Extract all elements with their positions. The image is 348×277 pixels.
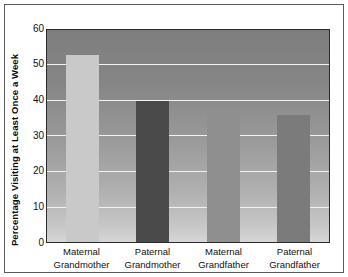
x-label-line1: Paternal [117, 246, 188, 259]
y-tick-label: 10 [4, 202, 44, 212]
x-label-line2: Grandmother [117, 259, 188, 272]
x-tick-label-maternal-grandfather: Maternal Grandfather [188, 246, 259, 274]
bar-maternal-grandmother [66, 55, 99, 242]
x-tick-label-maternal-grandmother: Maternal Grandmother [46, 246, 117, 274]
x-label-line1: Maternal [46, 246, 117, 259]
x-label-line2: Grandmother [46, 259, 117, 272]
plot-area [46, 29, 330, 243]
x-tick-label-paternal-grandmother: Paternal Grandmother [117, 246, 188, 274]
x-label-line2: Grandfather [259, 259, 330, 272]
figure: Percentage Visiting at Least Once a Week… [0, 0, 348, 277]
x-axis-labels: Maternal Grandmother Paternal Grandmothe… [46, 246, 330, 274]
bar-paternal-grandmother [136, 101, 169, 242]
x-label-line1: Paternal [259, 246, 330, 259]
bar-maternal-grandfather [207, 108, 240, 242]
x-tick-label-paternal-grandfather: Paternal Grandfather [259, 246, 330, 274]
y-tick-label: 30 [4, 131, 44, 141]
bar-paternal-grandfather [277, 115, 310, 242]
x-label-line2: Grandfather [188, 259, 259, 272]
y-axis-ticks: 60 50 40 30 20 10 0 [2, 0, 44, 277]
y-tick-label: 0 [4, 238, 44, 248]
x-label-line1: Maternal [188, 246, 259, 259]
y-tick-label: 50 [4, 59, 44, 69]
y-tick-label: 60 [4, 24, 44, 34]
y-tick-label: 20 [4, 166, 44, 176]
y-tick-label: 40 [4, 95, 44, 105]
